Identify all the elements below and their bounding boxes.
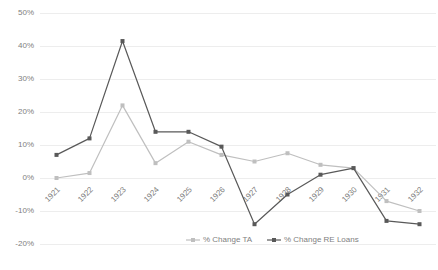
y-tick-label: 30% (18, 74, 34, 83)
x-tick-label: 1926 (208, 185, 227, 204)
x-tick-label: 1928 (274, 185, 293, 204)
x-tick-label: 1922 (76, 185, 95, 204)
x-tick-label: 1932 (406, 185, 425, 204)
data-point-marker (121, 103, 125, 107)
data-point-marker (352, 166, 356, 170)
x-tick-label: 1924 (142, 185, 161, 204)
data-point-marker (220, 153, 224, 157)
gridlines-group (40, 13, 436, 244)
legend-item-label: % Change TA (203, 235, 253, 244)
y-axis-tick-labels: 50%40%30%20%10%0%-10%-20% (15, 8, 34, 248)
data-point-marker (286, 193, 290, 197)
data-point-marker (187, 130, 191, 134)
data-point-marker (55, 176, 59, 180)
data-point-marker (88, 136, 92, 140)
data-point-marker (154, 130, 158, 134)
data-point-marker (319, 163, 323, 167)
x-tick-label: 1931 (373, 185, 392, 204)
x-tick-label: 1927 (241, 185, 260, 204)
y-tick-label: -20% (15, 239, 34, 248)
data-point-marker (154, 161, 158, 165)
x-axis-tick-labels: 1921192219231924192519261927192819291930… (43, 185, 425, 204)
x-tick-label: 1929 (307, 185, 326, 204)
data-point-marker (385, 199, 389, 203)
x-tick-label: 1930 (340, 185, 359, 204)
chart-legend: % Change TA% Change RE Loans (186, 235, 359, 244)
legend-item-label: % Change RE Loans (284, 235, 359, 244)
y-tick-label: -10% (15, 206, 34, 215)
x-tick-label: 1925 (175, 185, 194, 204)
line-chart: 50%40%30%20%10%0%-10%-20% 19211922192319… (0, 0, 438, 270)
legend-swatch-marker (272, 238, 276, 242)
data-point-marker (286, 151, 290, 155)
y-tick-label: 10% (18, 140, 34, 149)
data-point-marker (253, 160, 257, 164)
data-point-marker (220, 145, 224, 149)
data-point-marker (187, 140, 191, 144)
data-point-marker (418, 209, 422, 213)
chart-container: 50%40%30%20%10%0%-10%-20% 19211922192319… (0, 0, 438, 270)
legend-swatch-marker (191, 238, 195, 242)
data-point-marker (253, 222, 257, 226)
y-tick-label: 0% (22, 173, 34, 182)
y-tick-label: 50% (18, 8, 34, 17)
data-point-marker (319, 173, 323, 177)
data-point-marker (418, 222, 422, 226)
y-tick-label: 40% (18, 41, 34, 50)
data-point-marker (385, 219, 389, 223)
data-point-marker (55, 153, 59, 157)
y-tick-label: 20% (18, 107, 34, 116)
data-point-marker (121, 39, 125, 43)
data-point-marker (88, 171, 92, 175)
x-tick-label: 1923 (109, 185, 128, 204)
x-tick-label: 1921 (43, 185, 62, 204)
